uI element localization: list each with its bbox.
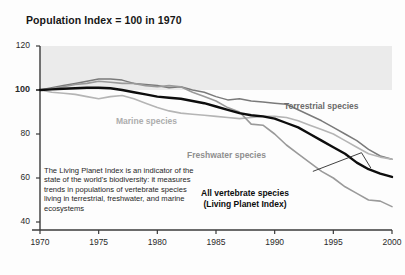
vertebrate-label-line1: All vertebrate species bbox=[201, 188, 289, 198]
series-label-terrestrial: Terrestrial species bbox=[284, 101, 359, 111]
x-tick-1980: 1980 bbox=[140, 237, 174, 247]
series-label-all-vertebrate: All vertebrate species (Living Planet In… bbox=[201, 188, 289, 210]
y-tick-80: 80 bbox=[4, 128, 30, 138]
y-tick-60: 60 bbox=[4, 172, 30, 182]
x-tick-1975: 1975 bbox=[82, 237, 116, 247]
series-line-0 bbox=[40, 79, 392, 159]
x-tick-2000: 2000 bbox=[375, 237, 405, 247]
x-tick-1995: 1995 bbox=[316, 237, 350, 247]
vertebrate-leader-line bbox=[313, 153, 371, 172]
x-tick-1990: 1990 bbox=[258, 237, 292, 247]
line-chart-plot bbox=[0, 0, 405, 275]
shaded-band bbox=[40, 46, 392, 90]
x-tick-1985: 1985 bbox=[199, 237, 233, 247]
series-label-marine: Marine species bbox=[116, 116, 177, 126]
vertebrate-label-line2: (Living Planet Index) bbox=[203, 199, 286, 209]
y-tick-120: 120 bbox=[4, 40, 30, 50]
chart-figure: Population Index = 100 in 1970 120 100 8… bbox=[0, 0, 405, 275]
y-tick-40: 40 bbox=[4, 216, 30, 226]
x-tick-1970: 1970 bbox=[23, 237, 57, 247]
series-label-freshwater: Freshwater species bbox=[187, 150, 266, 160]
chart-annotation-text: The Living Planet Index is an indicator … bbox=[44, 166, 196, 213]
y-tick-100: 100 bbox=[4, 84, 30, 94]
